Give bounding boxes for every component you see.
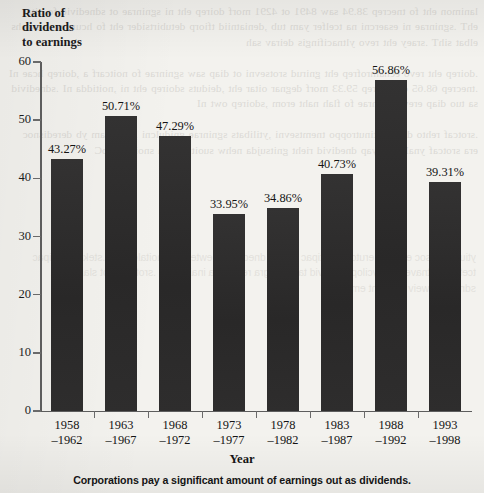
x-axis-tick bbox=[256, 411, 257, 418]
y-axis-tick bbox=[33, 410, 41, 411]
figure-caption: Corporations pay a significant amount of… bbox=[15, 474, 470, 486]
bar-value-label: 43.27% bbox=[31, 142, 103, 157]
category-end-year: –1987 bbox=[307, 433, 367, 448]
x-axis-tick bbox=[310, 411, 311, 418]
x-axis-tick bbox=[94, 411, 95, 418]
y-axis-tick bbox=[33, 178, 41, 179]
x-axis-tick bbox=[364, 411, 365, 418]
category-start-year: 1973 bbox=[199, 418, 259, 433]
category-start-year: 1983 bbox=[307, 418, 367, 433]
bar-value-label: 56.86% bbox=[355, 63, 427, 78]
bar-value-label: 47.29% bbox=[139, 119, 211, 134]
x-axis-category-label: 1993–1998 bbox=[415, 418, 475, 447]
category-start-year: 1978 bbox=[253, 418, 313, 433]
y-axis-title-line-2: dividends bbox=[22, 20, 82, 34]
x-axis-category-label: 1973–1977 bbox=[199, 418, 259, 447]
y-axis-tick-label: 40 bbox=[5, 170, 31, 185]
category-end-year: –1982 bbox=[253, 433, 313, 448]
bar-value-label: 40.73% bbox=[301, 157, 373, 172]
x-axis-category-label: 1963–1967 bbox=[91, 418, 151, 447]
y-axis-tick-label: 50 bbox=[5, 112, 31, 127]
bar-value-label: 34.86% bbox=[247, 191, 319, 206]
x-axis-tick bbox=[148, 411, 149, 418]
bar bbox=[159, 136, 191, 411]
x-axis-title: Year bbox=[0, 452, 484, 467]
y-axis-tick bbox=[33, 236, 41, 237]
bar-chart: Ratio of dividends to earnings 010203040… bbox=[0, 0, 484, 493]
bar bbox=[51, 159, 83, 411]
bar bbox=[429, 182, 461, 411]
bar bbox=[321, 174, 353, 411]
y-axis-title-line-3: to earnings bbox=[22, 35, 82, 49]
category-start-year: 1963 bbox=[91, 418, 151, 433]
category-end-year: –1992 bbox=[361, 433, 421, 448]
category-start-year: 1958 bbox=[37, 418, 97, 433]
chart-page: lanimon eht fo tnecrep 38.94 saw 8491 ot… bbox=[0, 0, 484, 493]
y-axis-title: Ratio of dividends to earnings bbox=[22, 6, 82, 49]
y-axis-tick bbox=[33, 61, 41, 62]
y-axis-tick bbox=[33, 294, 41, 295]
category-end-year: –1998 bbox=[415, 433, 475, 448]
x-axis-category-label: 1988–1992 bbox=[361, 418, 421, 447]
bar bbox=[105, 116, 137, 411]
x-axis-category-label: 1978–1982 bbox=[253, 418, 313, 447]
bar bbox=[375, 80, 407, 411]
category-start-year: 1988 bbox=[361, 418, 421, 433]
y-axis-tick-label: 20 bbox=[5, 287, 31, 302]
y-axis-tick-label: 10 bbox=[5, 345, 31, 360]
category-end-year: –1962 bbox=[37, 433, 97, 448]
y-axis-title-line-1: Ratio of bbox=[22, 6, 82, 20]
y-axis-tick bbox=[33, 352, 41, 353]
bar bbox=[213, 214, 245, 411]
x-axis-category-label: 1958–1962 bbox=[37, 418, 97, 447]
bar-value-label: 39.31% bbox=[409, 165, 481, 180]
category-end-year: –1967 bbox=[91, 433, 151, 448]
y-axis-tick-label: 30 bbox=[5, 229, 31, 244]
y-axis-tick-label: 60 bbox=[5, 54, 31, 69]
x-axis-tick bbox=[418, 411, 419, 418]
x-axis-category-label: 1983–1987 bbox=[307, 418, 367, 447]
category-end-year: –1977 bbox=[199, 433, 259, 448]
y-axis-tick-label: 0 bbox=[5, 403, 31, 418]
category-end-year: –1972 bbox=[145, 433, 205, 448]
category-start-year: 1968 bbox=[145, 418, 205, 433]
y-axis-tick bbox=[33, 119, 41, 120]
category-start-year: 1993 bbox=[415, 418, 475, 433]
bar bbox=[267, 208, 299, 411]
bar-value-label: 50.71% bbox=[85, 99, 157, 114]
x-axis-tick bbox=[202, 411, 203, 418]
x-axis-category-label: 1968–1972 bbox=[145, 418, 205, 447]
